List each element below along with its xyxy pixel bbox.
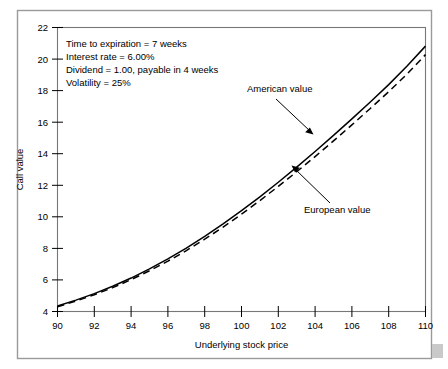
y-tick-label: 16 xyxy=(37,117,48,128)
x-tick-label: 102 xyxy=(270,320,286,331)
american-value-label: American value xyxy=(247,83,312,94)
american-value-annotation: American value xyxy=(247,83,314,135)
annotation-line: Interest rate = 6.00% xyxy=(66,51,155,62)
x-tick-label: 104 xyxy=(307,320,323,331)
x-tick-label: 94 xyxy=(126,320,137,331)
x-tick-label: 98 xyxy=(199,320,210,331)
x-tick-label: 96 xyxy=(163,320,174,331)
x-tick-label: 110 xyxy=(418,320,433,331)
y-tick-label: 6 xyxy=(43,274,48,285)
curve-european-value xyxy=(58,55,426,307)
x-axis-title: Underlying stock price xyxy=(195,339,288,350)
y-tick-label: 8 xyxy=(43,243,48,254)
figure-outer-frame xyxy=(18,11,432,359)
y-tick-label: 14 xyxy=(37,148,48,159)
x-tick-label: 90 xyxy=(52,320,63,331)
annotation-line: Time to expiration = 7 weeks xyxy=(66,38,187,49)
y-tick-label: 4 xyxy=(43,306,48,317)
american-value-leader-line xyxy=(276,99,311,132)
y-tick-label: 10 xyxy=(37,211,48,222)
x-tick-label: 92 xyxy=(89,320,100,331)
y-tick-label: 12 xyxy=(37,180,48,191)
y-axis-tick-labels: 22 20 18 16 14 12 10 8 6 4 xyxy=(37,22,48,317)
y-tick-label: 20 xyxy=(37,54,48,65)
y-axis-title: Call value xyxy=(14,149,25,191)
annotation-line: Dividend = 1.00, payable in 4 weeks xyxy=(66,64,219,75)
european-value-label: European value xyxy=(304,204,371,215)
x-tick-label: 106 xyxy=(344,320,360,331)
parameter-annotation-block: Time to expiration = 7 weeks Interest ra… xyxy=(66,38,219,88)
y-tick-label: 18 xyxy=(37,85,48,96)
annotation-line: Volatility = 25% xyxy=(66,77,131,88)
x-tick-label: 108 xyxy=(381,320,397,331)
chart-svg: 22 20 18 16 14 12 10 8 6 4 90 xyxy=(0,0,448,369)
x-axis-tick-labels: 90 92 94 96 98 100 102 104 106 108 110 xyxy=(52,320,433,331)
european-value-annotation: European value xyxy=(292,166,371,216)
chart-figure: 22 20 18 16 14 12 10 8 6 4 90 xyxy=(0,0,448,369)
european-value-leader-line xyxy=(295,169,331,204)
y-tick-label: 22 xyxy=(37,22,48,33)
american-value-arrowhead xyxy=(305,128,313,135)
x-tick-label: 100 xyxy=(234,320,250,331)
corner-mark xyxy=(432,344,443,358)
